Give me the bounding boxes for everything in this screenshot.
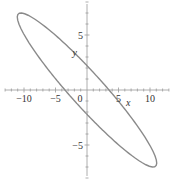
x-tick-label: 5 [116, 93, 121, 104]
y-axis-label: y [72, 47, 78, 58]
x-tick-label: 0 [78, 93, 83, 104]
axes [5, 2, 169, 178]
y-tick-label: −5 [72, 140, 83, 151]
x-tick-label: −10 [16, 93, 32, 104]
x-tick-label: 10 [145, 93, 155, 104]
x-axis-label: x [125, 97, 131, 108]
x-tick-label: −5 [50, 93, 61, 104]
y-tick-label: 5 [78, 30, 83, 41]
ellipse-plot: −10−50510−55 x y [0, 0, 173, 181]
